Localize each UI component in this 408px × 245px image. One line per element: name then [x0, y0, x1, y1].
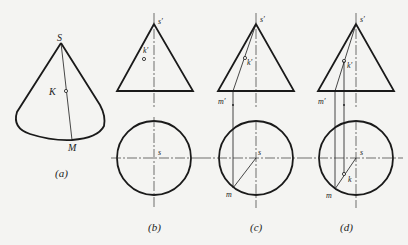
label-s: s	[360, 148, 363, 157]
label-k-prime: k′	[347, 61, 353, 70]
label-k-prime: k′	[143, 46, 149, 55]
caption-d: (d)	[340, 221, 353, 234]
front-triangle	[117, 24, 193, 91]
label-s: s	[158, 148, 161, 157]
cone-outline	[16, 43, 105, 140]
point-k	[342, 172, 345, 175]
panel-a: S K M (a)	[16, 32, 105, 180]
panel-b: s′ k′ s (b)	[111, 13, 201, 234]
label-s: s	[258, 148, 261, 157]
label-m: m	[326, 191, 332, 200]
cone-projection-diagram: S K M (a) s′ k′ s (b) s′ k′ m′ s m (c)	[0, 0, 408, 245]
label-k-prime: k′	[247, 58, 253, 67]
caption-a: (a)	[55, 167, 68, 180]
panel-d: s′ k′ m′ s k m (d)	[302, 13, 403, 234]
label-m-prime: m′	[318, 97, 326, 106]
label-K: K	[48, 86, 57, 97]
arrow-marker	[232, 104, 234, 106]
caption-b: (b)	[148, 221, 161, 234]
generatrix-front	[335, 24, 356, 91]
label-k: k	[348, 175, 352, 184]
arrow-marker	[343, 104, 345, 106]
label-m: m	[226, 190, 232, 199]
panel-c: s′ k′ m′ s m (c)	[201, 13, 302, 234]
label-M: M	[67, 142, 77, 153]
caption-c: (c)	[250, 221, 263, 234]
label-s-prime: s′	[158, 17, 163, 26]
label-m-prime: m′	[218, 97, 226, 106]
label-s-prime: s′	[260, 15, 265, 24]
point-k-prime	[142, 57, 145, 60]
label-s-prime: s′	[360, 15, 365, 24]
label-S: S	[57, 32, 62, 43]
point-k	[64, 89, 67, 92]
generatrix-top	[233, 158, 256, 188]
